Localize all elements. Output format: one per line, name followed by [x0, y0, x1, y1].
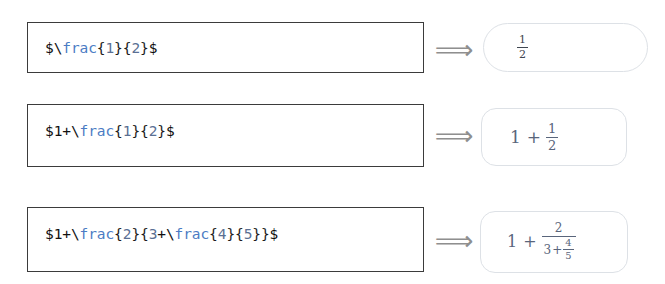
token-dollar-open: $: [45, 40, 54, 56]
token-command-frac: frac: [80, 123, 115, 139]
token-brace-open-2: {: [140, 123, 149, 139]
token-command-frac-inner: frac: [175, 226, 210, 242]
fraction-denominator: 2: [546, 137, 558, 153]
token-plus: +: [62, 226, 71, 242]
fraction-inner: 4 5: [563, 238, 573, 262]
inner-fraction-numerator: 4: [563, 238, 573, 249]
latex-examples-stage: $\frac{1}{2}$ ⟹ 1 2 $1+\frac{1}{2}$ ⟹ 1 …: [0, 0, 665, 284]
token-dollar-open: $: [45, 226, 54, 242]
latex-source-text: $\frac{1}{2}$: [28, 41, 157, 56]
token-backslash-outer: \: [71, 226, 80, 242]
token-brace-close-1: }: [131, 123, 140, 139]
token-backslash: \: [71, 123, 80, 139]
token-numerator: 1: [105, 40, 114, 56]
token-denominator-lead: 3: [149, 226, 158, 242]
denominator-operator: +: [551, 244, 563, 257]
fraction: 1 2: [546, 122, 558, 152]
fraction-outer: 2 3 + 4 5: [542, 222, 576, 261]
implies-double-arrow-icon: ⟹: [428, 227, 480, 254]
token-brace-close-1: }: [114, 40, 123, 56]
latex-source-text: $1+\frac{1}{2}$: [28, 124, 175, 139]
math-operator: +: [522, 129, 546, 146]
token-brace-open-4: {: [235, 226, 244, 242]
token-brace-close-5: }: [261, 226, 270, 242]
latex-source-box[interactable]: $1+\frac{1}{2}$: [27, 104, 424, 167]
denominator-expression: 3 + 4 5: [544, 238, 574, 262]
rendered-math: 1 + 1 2: [482, 122, 558, 152]
fraction-numerator: 1: [546, 122, 558, 137]
token-brace-close-4: }: [252, 226, 261, 242]
fraction-denominator: 3 + 4 5: [542, 236, 576, 262]
implies-double-arrow-icon: ⟹: [428, 122, 480, 149]
token-brace-close-2: }: [157, 123, 166, 139]
token-denominator-plus: +: [157, 226, 166, 242]
math-lead-term: 1: [506, 234, 518, 250]
token-dollar-open: $: [45, 123, 54, 139]
example-row: $\frac{1}{2}$ ⟹ 1 2: [0, 22, 665, 74]
token-dollar-close: $: [166, 123, 175, 139]
rendered-math: 1 + 2 3 + 4 5: [481, 222, 576, 261]
token-plus: +: [62, 123, 71, 139]
token-denominator: 2: [149, 123, 158, 139]
token-brace-close-2: }: [140, 40, 149, 56]
fraction: 1 2: [517, 34, 528, 60]
latex-source-box[interactable]: $\frac{1}{2}$: [27, 22, 424, 73]
denominator-lead-term: 3: [544, 244, 552, 257]
token-lead-number: 1: [54, 123, 63, 139]
token-brace-open-1: {: [114, 226, 123, 242]
token-command-frac-outer: frac: [80, 226, 115, 242]
example-row: $1+\frac{1}{2}$ ⟹ 1 + 1 2: [0, 104, 665, 168]
fraction-numerator: 2: [553, 222, 565, 236]
token-brace-close-1: }: [131, 226, 140, 242]
token-backslash-inner: \: [166, 226, 175, 242]
token-brace-open-1: {: [114, 123, 123, 139]
token-denominator: 2: [131, 40, 140, 56]
rendered-output-box: 1 2: [483, 23, 648, 72]
token-dollar-close: $: [149, 40, 158, 56]
rendered-math: 1 2: [484, 34, 528, 60]
token-lead-number: 1: [54, 226, 63, 242]
token-brace-open-2: {: [140, 226, 149, 242]
latex-source-text: $1+\frac{2}{3+\frac{4}{5}}$: [28, 227, 278, 242]
token-dollar-close: $: [270, 226, 279, 242]
token-brace-open-3: {: [209, 226, 218, 242]
fraction-numerator: 1: [517, 34, 528, 47]
fraction-denominator: 2: [517, 47, 528, 61]
implies-double-arrow-icon: ⟹: [428, 36, 480, 63]
token-command-frac: frac: [62, 40, 97, 56]
inner-fraction-denominator: 5: [563, 249, 573, 261]
token-brace-close-3: }: [226, 226, 235, 242]
rendered-output-box: 1 + 1 2: [481, 108, 627, 166]
latex-source-box[interactable]: $1+\frac{2}{3+\frac{4}{5}}$: [27, 207, 424, 272]
example-row: $1+\frac{2}{3+\frac{4}{5}}$ ⟹ 1 + 2 3 + …: [0, 207, 665, 273]
token-backslash: \: [54, 40, 63, 56]
math-lead-term: 1: [509, 129, 522, 146]
rendered-output-box: 1 + 2 3 + 4 5: [480, 211, 628, 273]
math-operator: +: [518, 234, 541, 250]
